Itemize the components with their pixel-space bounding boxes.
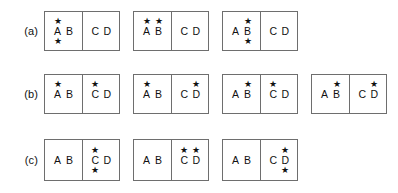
letter-slot: ★C [181,155,188,166]
letter-group: AB [143,155,162,166]
letter: D [193,154,201,166]
letter: A [54,154,61,166]
letter-slot: ★B [155,26,162,37]
letter-group: C★D★ [270,155,289,166]
cell-right: C★D [349,75,386,113]
letter: B [66,25,73,37]
letter: D [104,154,112,166]
letter: A [143,88,150,100]
letter-slot: B [66,26,73,37]
letter-group: ★A★B [143,26,162,37]
cell-right: CD [171,12,208,50]
box-group: ★AB★CD★ABC★DA★B★CDA★BC★D [44,74,387,114]
letter: A [232,154,239,166]
letter-slot: D [282,26,289,37]
letter-slot: A [232,155,239,166]
letter: B [244,25,251,37]
partition-box: AB★C★D [44,139,120,181]
cell-right: CD [260,12,297,50]
letter: C [181,154,189,166]
partition-box: ★AB★CD [44,74,120,114]
letter-group: ★CD [92,89,111,100]
letter-slot: C [270,155,277,166]
star-icon-below: ★ [91,166,99,175]
row-label: (c) [0,155,44,166]
star-icon-below: ★ [54,37,62,46]
letter-slot: ★B [333,89,340,100]
cell-left: A★B [223,75,260,113]
diagram-row: (c)AB★C★DAB★C★DABC★D★ [0,137,398,183]
cell-right: C★D★ [260,140,297,180]
letter: C [181,88,189,100]
box-group: ★A★BCD★A★BCDA★B★CD [44,11,298,51]
letter: B [244,154,251,166]
letter-group: A★B★ [232,26,251,37]
letter-group: ★CD [270,89,289,100]
letter-slot: B [66,155,73,166]
letter-slot: ★A★ [54,26,61,37]
letter: A [143,25,150,37]
star-icon-below: ★ [281,166,289,175]
row-label: (b) [0,89,44,100]
letter: A [54,25,61,37]
letter-slot: D [193,26,200,37]
cell-right: ★CD [82,75,119,113]
partition-box: ★ABC★D [133,74,209,114]
letter: C [359,88,367,100]
letter: B [66,88,73,100]
partition-box: ★A★BCD [44,11,120,51]
letter-group: ★C★D [181,155,200,166]
letter-slot: A [232,89,239,100]
star-icon-below: ★ [244,37,252,46]
letter-group: ★AB [143,89,162,100]
letter: B [155,154,162,166]
cell-left: ★AB [134,75,171,113]
letter: A [232,88,239,100]
letter-slot: C [181,89,188,100]
letter-group: CD [92,26,111,37]
letter-group: AB [232,155,251,166]
letter: D [371,88,379,100]
letter-group: ★C★D [92,155,111,166]
letter: B [244,88,251,100]
letter-slot: B [66,89,73,100]
letter-slot: A [232,26,239,37]
letter-slot: B [244,155,251,166]
partition-box: ★A★BCD [133,11,209,51]
letter-slot: B [155,155,162,166]
cell-right: ★C★D [171,140,208,180]
letter: D [193,88,201,100]
letter: A [54,88,61,100]
partition-box: A★B★CD [222,11,298,51]
letter: B [333,88,340,100]
cell-left: AB [45,140,82,180]
cell-right: C★D [171,75,208,113]
letter-slot: A [54,155,61,166]
letter: C [270,154,278,166]
letter-slot: B [155,89,162,100]
letter: D [282,25,290,37]
letter-slot: A [321,89,328,100]
letter-group: C★D [181,89,200,100]
letter-slot: C [92,26,99,37]
cell-right: ★C★D [82,140,119,180]
letter: D [104,25,112,37]
cell-left: ★AB [45,75,82,113]
letter: B [155,88,162,100]
partition-box: ABC★D★ [222,139,298,181]
letter: C [92,154,100,166]
letter-slot: ★C★ [92,155,99,166]
letter-slot: ★C [92,89,99,100]
letter-slot: C [359,89,366,100]
cell-left: AB [223,140,260,180]
letter-slot: ★D★ [282,155,289,166]
letter: D [104,88,112,100]
partition-box: A★BC★D [311,74,387,114]
diagram-row: (b)★AB★CD★ABC★DA★B★CDA★BC★D [0,71,398,117]
letter-slot: ★C [270,89,277,100]
letter-group: C★D [359,89,378,100]
letter: B [155,25,162,37]
letter-slot: ★A [54,89,61,100]
letter-slot: ★B★ [244,26,251,37]
partition-box: A★B★CD [222,74,298,114]
